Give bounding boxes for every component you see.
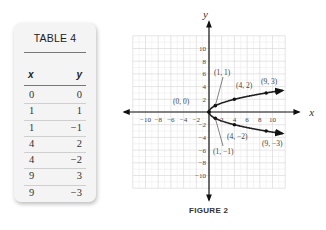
figure-plot: xy−10−8−6−4−2246810108642−2−4−6−8−10(0, … — [0, 0, 326, 230]
svg-text:8: 8 — [203, 58, 207, 66]
svg-text:(9, −3): (9, −3) — [262, 139, 283, 148]
svg-text:8: 8 — [258, 116, 262, 124]
svg-text:(1, −1): (1, −1) — [213, 147, 234, 156]
svg-text:−2: −2 — [199, 121, 207, 129]
svg-text:−8: −8 — [199, 159, 207, 167]
svg-text:2: 2 — [220, 116, 224, 124]
tick-labels: xy−10−8−6−4−2246810108642−2−4−6−8−10(0, … — [140, 8, 314, 180]
svg-text:6: 6 — [203, 70, 207, 78]
svg-text:−4: −4 — [180, 116, 188, 124]
svg-text:(1, 1): (1, 1) — [214, 68, 231, 77]
svg-text:4: 4 — [203, 83, 207, 91]
svg-text:−4: −4 — [199, 134, 207, 142]
svg-text:−10: −10 — [195, 172, 206, 180]
svg-text:x: x — [308, 106, 314, 118]
figure-caption: FIGURE 2 — [189, 206, 228, 215]
svg-text:−8: −8 — [154, 116, 162, 124]
svg-text:6: 6 — [245, 116, 249, 124]
svg-text:10: 10 — [269, 116, 277, 124]
svg-text:(4, 2): (4, 2) — [236, 81, 253, 90]
svg-text:10: 10 — [199, 45, 207, 53]
svg-text:y: y — [202, 8, 208, 20]
svg-text:(9, 3): (9, 3) — [261, 77, 278, 86]
svg-text:−10: −10 — [140, 116, 151, 124]
svg-text:−6: −6 — [167, 116, 175, 124]
svg-text:2: 2 — [203, 96, 207, 104]
svg-text:(0, 0): (0, 0) — [173, 97, 190, 106]
svg-text:(4, −2): (4, −2) — [227, 132, 248, 141]
svg-text:−6: −6 — [199, 147, 207, 155]
svg-text:4: 4 — [233, 116, 237, 124]
